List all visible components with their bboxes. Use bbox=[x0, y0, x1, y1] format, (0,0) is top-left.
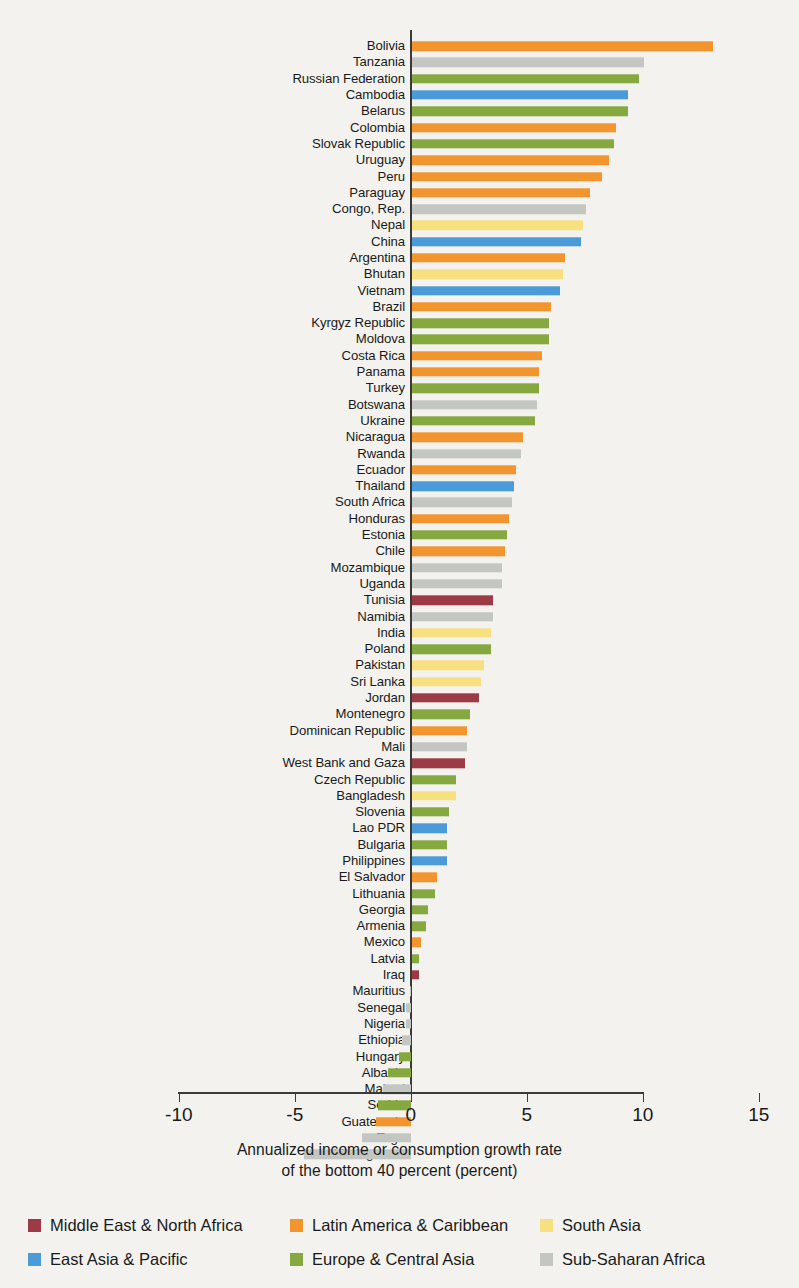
country-label: Ecuador bbox=[357, 463, 405, 477]
country-label: Congo, Rep. bbox=[332, 202, 405, 216]
legend-label: Middle East & North Africa bbox=[50, 1216, 243, 1234]
bar bbox=[412, 286, 560, 295]
bar-row: Mozambique bbox=[0, 560, 799, 576]
x-tick bbox=[411, 1093, 413, 1102]
bar-row: West Bank and Gaza bbox=[0, 755, 799, 771]
bar-row: Nigeria bbox=[0, 1016, 799, 1032]
x-tick-label: 10 bbox=[632, 1104, 653, 1126]
country-label: Colombia bbox=[350, 121, 405, 135]
bar-row: Georgia bbox=[0, 902, 799, 918]
x-tick-label: 5 bbox=[522, 1104, 533, 1126]
bar bbox=[412, 41, 714, 50]
bar bbox=[412, 367, 540, 376]
country-label: Turkey bbox=[366, 382, 405, 396]
bar bbox=[412, 856, 447, 865]
x-tick bbox=[295, 1093, 297, 1102]
bar-row: Bhutan bbox=[0, 266, 799, 282]
legend-item-eca[interactable]: Europe & Central Asia bbox=[290, 1250, 540, 1268]
x-tick bbox=[759, 1093, 761, 1102]
bar-row: Costa Rica bbox=[0, 348, 799, 364]
country-label: Slovak Republic bbox=[312, 137, 405, 151]
country-label: Ukraine bbox=[360, 414, 405, 428]
bar bbox=[412, 905, 428, 914]
country-label: Czech Republic bbox=[314, 773, 405, 787]
bar bbox=[412, 172, 602, 181]
country-label: Peru bbox=[378, 170, 405, 184]
bar bbox=[412, 791, 456, 800]
bar bbox=[412, 188, 591, 197]
legend-label: Europe & Central Asia bbox=[312, 1250, 474, 1268]
x-axis-title-line2: of the bottom 40 percent (percent) bbox=[0, 1160, 799, 1181]
bar-row: Panama bbox=[0, 364, 799, 380]
country-label: Nigeria bbox=[364, 1017, 405, 1031]
bar-rows: BoliviaTanzaniaRussian FederationCambodi… bbox=[0, 38, 799, 1162]
bar-row: Hungary bbox=[0, 1048, 799, 1064]
bar-row: Jordan bbox=[0, 690, 799, 706]
legend-swatch-icon bbox=[290, 1219, 303, 1232]
legend-item-lac[interactable]: Latin America & Caribbean bbox=[290, 1216, 540, 1234]
country-label: Kyrgyz Republic bbox=[311, 316, 405, 330]
legend-label: Sub-Saharan Africa bbox=[562, 1250, 705, 1268]
legend-item-eap[interactable]: East Asia & Pacific bbox=[28, 1250, 290, 1268]
bar-row: Colombia bbox=[0, 119, 799, 135]
country-label: Latvia bbox=[370, 952, 405, 966]
bar bbox=[412, 449, 521, 458]
bar-row: Uganda bbox=[0, 576, 799, 592]
legend-item-ssa[interactable]: Sub-Saharan Africa bbox=[540, 1250, 770, 1268]
country-label: Botswana bbox=[348, 398, 405, 412]
country-label: Panama bbox=[356, 365, 405, 379]
bar bbox=[412, 547, 505, 556]
bar-row: Chile bbox=[0, 543, 799, 559]
bar bbox=[412, 807, 449, 816]
x-tick-label: 0 bbox=[406, 1104, 417, 1126]
bar-row: Pakistan bbox=[0, 657, 799, 673]
legend-item-mena[interactable]: Middle East & North Africa bbox=[28, 1216, 290, 1234]
bar bbox=[412, 873, 438, 882]
country-label: Montenegro bbox=[336, 708, 405, 722]
bar-row: Bangladesh bbox=[0, 788, 799, 804]
bar-row: Namibia bbox=[0, 608, 799, 624]
bar-row: China bbox=[0, 234, 799, 250]
country-label: Tanzania bbox=[353, 56, 405, 70]
bar-row: Peru bbox=[0, 168, 799, 184]
country-label: Thailand bbox=[355, 479, 405, 493]
bar-row: Nepal bbox=[0, 217, 799, 233]
bar-row: Paraguay bbox=[0, 185, 799, 201]
bar-row: Thailand bbox=[0, 478, 799, 494]
bar bbox=[412, 465, 516, 474]
country-label: Armenia bbox=[357, 919, 405, 933]
legend-label: East Asia & Pacific bbox=[50, 1250, 188, 1268]
bar bbox=[412, 139, 614, 148]
bar-row: Albania bbox=[0, 1065, 799, 1081]
bar bbox=[412, 824, 447, 833]
bar bbox=[412, 530, 507, 539]
country-label: Nicaragua bbox=[346, 430, 405, 444]
x-tick-label: -10 bbox=[165, 1104, 192, 1126]
legend: Middle East & North AfricaLatin America … bbox=[28, 1208, 788, 1276]
bar-row: Lithuania bbox=[0, 885, 799, 901]
country-label: South Africa bbox=[335, 496, 405, 510]
country-label: Bolivia bbox=[367, 39, 405, 53]
country-label: Bangladesh bbox=[336, 789, 405, 803]
bar-row: Moldova bbox=[0, 331, 799, 347]
country-label: Argentina bbox=[349, 251, 405, 265]
country-label: Belarus bbox=[361, 105, 405, 119]
legend-item-sa[interactable]: South Asia bbox=[540, 1216, 770, 1234]
bar-row: Estonia bbox=[0, 527, 799, 543]
bar-row: Argentina bbox=[0, 250, 799, 266]
country-label: Mexico bbox=[364, 936, 405, 950]
bar-row: Ethiopia bbox=[0, 1032, 799, 1048]
bar bbox=[406, 1019, 411, 1028]
country-label: Vietnam bbox=[358, 284, 405, 298]
bar bbox=[388, 1068, 411, 1077]
bar-row: Honduras bbox=[0, 511, 799, 527]
legend-swatch-icon bbox=[290, 1253, 303, 1266]
country-label: Estonia bbox=[362, 528, 405, 542]
bar bbox=[412, 253, 565, 262]
figure-bottom40-growth: BoliviaTanzaniaRussian FederationCambodi… bbox=[0, 0, 799, 1288]
bar-row: Mexico bbox=[0, 934, 799, 950]
bar-row: Latvia bbox=[0, 951, 799, 967]
country-label: Chile bbox=[375, 545, 405, 559]
bar-row: Tanzania bbox=[0, 54, 799, 70]
bar-row: Bolivia bbox=[0, 38, 799, 54]
